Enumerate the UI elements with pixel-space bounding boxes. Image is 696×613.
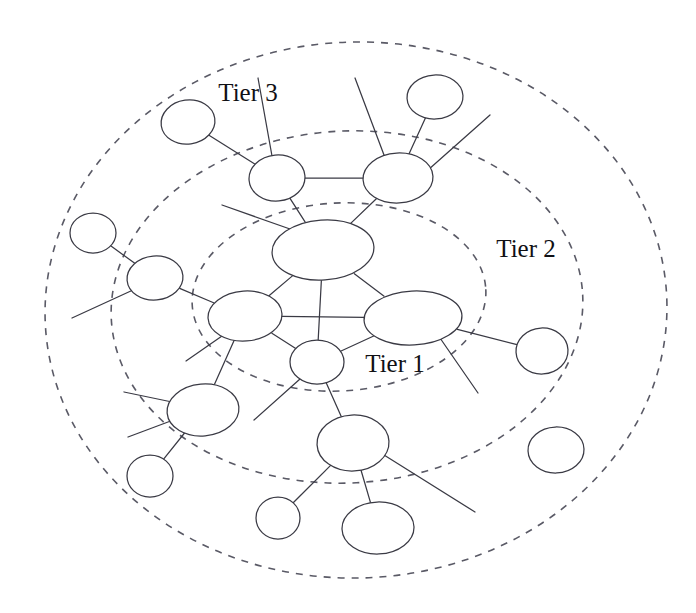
- node-n-t2-lower-mid[interactable]: [316, 413, 391, 473]
- node-n-t3-top-right[interactable]: [406, 74, 464, 121]
- tier-label-tier3: Tier 3: [218, 79, 278, 106]
- s-t2lm-downright: [384, 455, 475, 512]
- tier-label-tier1: Tier 1: [365, 350, 425, 377]
- node-n-t3-top-left[interactable]: [158, 96, 218, 147]
- s-coreleft-downleft: [186, 336, 222, 361]
- e-coretop-coreright: [354, 274, 384, 297]
- node-n-t3-right[interactable]: [515, 327, 569, 376]
- e-coretop-t2ul: [290, 198, 305, 222]
- node-n-t2-lower-left[interactable]: [165, 381, 241, 439]
- s-corebottom-downleft: [254, 379, 300, 420]
- e-t2lm-t3bs: [293, 465, 331, 503]
- node-n-core-left[interactable]: [206, 288, 283, 343]
- node-n-core-right[interactable]: [363, 288, 464, 347]
- e-t2ll-t3bl: [164, 432, 185, 459]
- s-coreright-downright: [440, 338, 478, 393]
- e-coreleft-t2ll: [214, 340, 234, 385]
- e-t2left-coreleft: [180, 288, 214, 302]
- node-n-t2-upper-left[interactable]: [247, 153, 307, 204]
- node-n-core-bottom[interactable]: [290, 340, 344, 384]
- e-coretop-t2ur: [350, 198, 377, 224]
- s-t2ur-upright: [428, 115, 490, 170]
- e-coretop-corebottom: [318, 280, 321, 340]
- e-corebottom-t2lm: [326, 383, 341, 417]
- node-n-t3-bottom-small[interactable]: [256, 497, 300, 539]
- s-t2left-downleft: [72, 290, 133, 318]
- s-t2ll-leftlow: [128, 419, 176, 437]
- node-n-t2-upper-right[interactable]: [362, 151, 435, 205]
- s-coretop-upleft: [222, 205, 290, 229]
- e-t2ur-t3tr: [409, 118, 426, 155]
- node-n-t3-bottom-left[interactable]: [127, 455, 173, 497]
- e-coreleft-coreright: [282, 316, 364, 317]
- tier-boundaries-layer: [36, 31, 676, 588]
- e-coreright-t3right: [457, 329, 517, 344]
- s-t2ur-up: [355, 78, 384, 155]
- tier3-boundary: [36, 31, 676, 588]
- e-t2left-t3left: [111, 246, 135, 263]
- e-coretop-coreleft: [268, 275, 294, 297]
- e-coreleft-corebottom: [272, 333, 296, 348]
- network-svg: Tier 3Tier 2Tier 1: [0, 0, 696, 613]
- node-n-t3-isolated[interactable]: [527, 426, 585, 474]
- node-n-t3-bottom-wide[interactable]: [341, 501, 415, 555]
- node-n-t3-left[interactable]: [70, 213, 116, 253]
- network-diagram: Tier 3Tier 2Tier 1: [0, 0, 696, 613]
- node-n-t2-left[interactable]: [125, 254, 185, 303]
- node-n-core-top[interactable]: [270, 217, 376, 284]
- tier-label-tier2: Tier 2: [496, 235, 556, 262]
- e-t2lm-t3bw: [361, 470, 370, 502]
- s-t2ll-left: [124, 392, 172, 402]
